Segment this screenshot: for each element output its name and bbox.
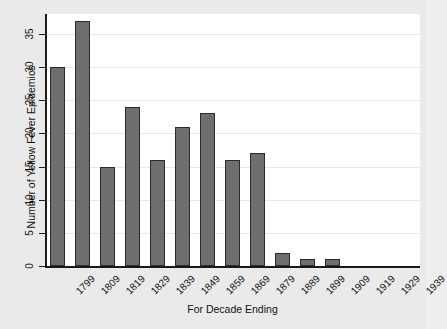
x-axis-tick-label: 1919 <box>373 273 397 297</box>
x-axis-tick-label: 1849 <box>198 273 222 297</box>
x-axis-tick-label: 1869 <box>248 273 272 297</box>
bar <box>325 259 341 266</box>
y-axis-tick <box>39 34 45 35</box>
y-axis-tick <box>39 167 45 168</box>
x-axis-tick-label: 1839 <box>173 273 197 297</box>
y-axis-tick <box>39 100 45 101</box>
gridline <box>45 133 420 134</box>
bar <box>75 21 91 266</box>
gridline <box>45 67 420 68</box>
bar <box>200 113 216 266</box>
x-axis-tick-label: 1879 <box>273 273 297 297</box>
bar <box>275 253 291 266</box>
y-axis-tick-label-text: 0 <box>24 259 35 273</box>
bar <box>150 160 166 266</box>
gridline <box>45 34 420 35</box>
x-axis-tick-label: 1859 <box>223 273 247 297</box>
x-axis-title: For Decade Ending <box>45 303 420 315</box>
x-axis-tick-label: 1809 <box>98 273 122 297</box>
x-axis-line <box>45 266 420 268</box>
y-axis-title: Number of Yellow Fever Epidemics <box>25 37 37 257</box>
x-axis-tick-label: 1799 <box>73 273 97 297</box>
bar <box>175 127 191 266</box>
x-axis-tick-label: 1829 <box>148 273 172 297</box>
y-axis-tick <box>39 67 45 68</box>
y-axis-tick <box>39 200 45 201</box>
x-axis-tick-label: 1889 <box>298 273 322 297</box>
bar <box>50 67 66 266</box>
bar <box>300 259 316 266</box>
x-axis-tick-label: 1819 <box>123 273 147 297</box>
x-axis-tick-label: 1909 <box>348 273 372 297</box>
x-axis-tick-label: 1939 <box>423 273 447 297</box>
y-axis-tick <box>39 133 45 134</box>
bar <box>125 107 141 266</box>
y-axis-tick <box>39 233 45 234</box>
y-axis-line <box>45 14 47 268</box>
bar <box>100 167 116 266</box>
y-axis-tick <box>39 266 45 267</box>
bar <box>225 160 241 266</box>
x-axis-tick-label: 1899 <box>323 273 347 297</box>
bar <box>250 153 266 266</box>
gridline <box>45 100 420 101</box>
x-axis-tick-label: 1929 <box>398 273 422 297</box>
